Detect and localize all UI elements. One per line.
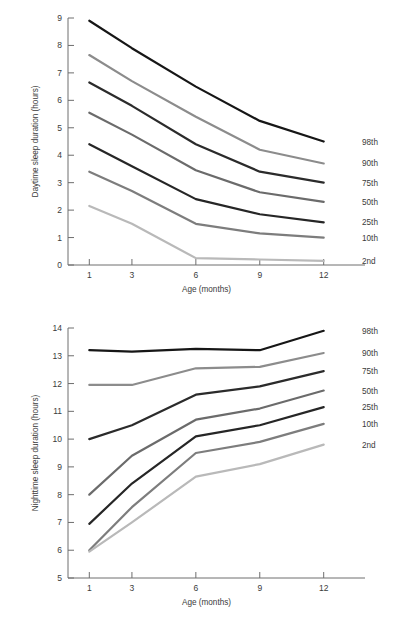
y-tick-label: 8 <box>57 490 62 500</box>
y-tick-label: 1 <box>57 233 62 243</box>
series-line-25th <box>89 407 323 524</box>
x-tick-label: 1 <box>87 583 92 593</box>
series-label-10th: 10th <box>362 420 378 429</box>
series-line-98th <box>89 331 323 352</box>
y-tick-label: 5 <box>57 123 62 133</box>
y-tick-label: 3 <box>57 178 62 188</box>
x-axis-title: Age (months) <box>182 285 231 294</box>
nighttime-chart-canvas: 567891011121314136912Age (months)Nightti… <box>0 310 409 627</box>
series-line-50th <box>89 391 323 495</box>
x-tick-label: 3 <box>130 270 135 280</box>
y-tick-label: 9 <box>57 462 62 472</box>
series-label-25th: 25th <box>362 218 378 227</box>
x-axis-title: Age (months) <box>182 598 231 607</box>
series-label-98th: 98th <box>362 327 378 336</box>
x-tick-label: 9 <box>257 270 262 280</box>
y-tick-label: 13 <box>53 351 63 361</box>
y-axis-title: Daytime sleep duration (hours) <box>31 85 40 197</box>
daytime-sleep-chart: 0123456789136912Age (months)Daytime slee… <box>0 0 409 310</box>
x-tick-label: 9 <box>257 583 262 593</box>
series-label-98th: 98th <box>362 138 378 147</box>
x-tick-label: 6 <box>193 583 198 593</box>
y-axis-title: Nighttime sleep duration (hours) <box>31 394 40 511</box>
series-label-25th: 25th <box>362 403 378 412</box>
x-tick-label: 12 <box>319 270 329 280</box>
series-label-50th: 50th <box>362 198 378 207</box>
series-label-2nd: 2nd <box>362 441 376 450</box>
series-label-10th: 10th <box>362 234 378 243</box>
y-tick-label: 8 <box>57 40 62 50</box>
y-tick-label: 12 <box>53 379 63 389</box>
y-tick-label: 9 <box>57 13 62 23</box>
series-line-75th <box>89 82 323 182</box>
series-label-90th: 90th <box>362 349 378 358</box>
series-label-50th: 50th <box>362 387 378 396</box>
x-tick-label: 6 <box>193 270 198 280</box>
y-tick-label: 5 <box>57 573 62 583</box>
series-line-90th <box>89 55 323 163</box>
series-label-2nd: 2nd <box>362 257 376 266</box>
y-tick-label: 0 <box>57 260 62 270</box>
x-tick-label: 12 <box>319 583 329 593</box>
series-label-90th: 90th <box>362 159 378 168</box>
x-tick-label: 1 <box>87 270 92 280</box>
y-tick-label: 11 <box>53 406 62 416</box>
y-tick-label: 2 <box>57 205 62 215</box>
daytime-chart-canvas: 0123456789136912Age (months)Daytime slee… <box>0 0 409 310</box>
y-tick-label: 4 <box>57 150 62 160</box>
nighttime-sleep-chart: 567891011121314136912Age (months)Nightti… <box>0 310 409 627</box>
y-tick-label: 14 <box>53 323 63 333</box>
chart-page: 0123456789136912Age (months)Daytime slee… <box>0 0 409 627</box>
series-label-75th: 75th <box>362 367 378 376</box>
series-line-2nd <box>89 206 323 261</box>
y-tick-label: 6 <box>57 545 62 555</box>
series-label-75th: 75th <box>362 179 378 188</box>
y-tick-label: 7 <box>57 68 62 78</box>
y-tick-label: 7 <box>57 517 62 527</box>
y-tick-label: 6 <box>57 95 62 105</box>
series-line-2nd <box>89 445 323 552</box>
series-line-10th <box>89 424 323 550</box>
y-tick-label: 10 <box>53 434 63 444</box>
series-line-75th <box>89 371 323 439</box>
series-line-10th <box>89 172 323 238</box>
x-tick-label: 3 <box>130 583 135 593</box>
